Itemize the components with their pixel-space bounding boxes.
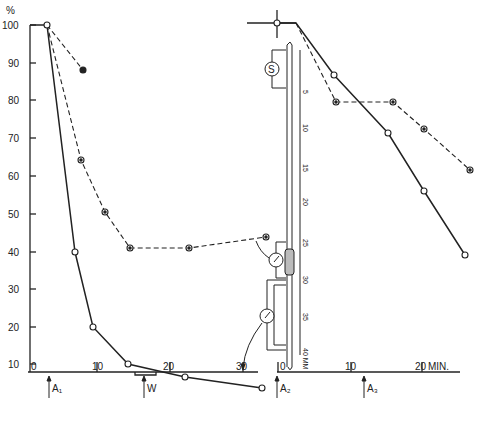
y-tick-80: 80 <box>8 95 20 106</box>
marker-a1: A₁ <box>52 383 63 394</box>
y-tick-60: 60 <box>8 171 20 182</box>
left-x-tick-30: 30 <box>236 361 248 372</box>
apparatus <box>241 42 300 370</box>
marker-a3: A₃ <box>367 383 378 394</box>
scale-tick-5: 5 <box>302 90 309 94</box>
figure: % 100 90 80 70 60 50 40 30 20 10 0 10 20… <box>0 0 478 431</box>
left-solid-line <box>30 25 262 388</box>
left-x-tick-20: 20 <box>163 361 175 372</box>
right-x-tick-20: 20 <box>415 361 427 372</box>
y-unit-label: % <box>6 5 15 16</box>
y-tick-20: 20 <box>8 322 20 333</box>
right-x-tick-10: 10 <box>345 361 357 372</box>
right-x-unit-label: MIN. <box>428 361 449 372</box>
marker-a2: A₂ <box>280 383 291 394</box>
scale-tick-20: 20 <box>302 198 309 206</box>
y-tick-90: 90 <box>8 58 20 69</box>
scale-tick-30: 30 <box>302 276 309 284</box>
left-x-tick-10: 10 <box>92 361 104 372</box>
marker-w: W <box>147 383 157 394</box>
scale-tick-35: 35 <box>302 313 309 321</box>
scale-tick-25: 25 <box>302 239 309 247</box>
left-dashed-line <box>47 25 266 248</box>
y-tick-50: 50 <box>8 209 20 220</box>
right-solid-line <box>277 23 465 255</box>
scale-tick-15: 15 <box>302 164 309 172</box>
y-tick-40: 40 <box>8 247 20 258</box>
left-x-tick-0: 0 <box>31 361 37 372</box>
right-dashed-line <box>296 23 470 170</box>
stimulator-label: S <box>268 64 275 75</box>
y-tick-30: 30 <box>8 284 20 295</box>
scale-tick-10: 10 <box>302 124 309 132</box>
scale-tick-40: 40 MM <box>302 348 309 370</box>
chart-svg: % 100 90 80 70 60 50 40 30 20 10 0 10 20… <box>0 0 478 431</box>
y-tick-70: 70 <box>8 133 20 144</box>
right-x-tick-0: 0 <box>280 361 286 372</box>
y-tick-10: 10 <box>8 359 20 370</box>
y-tick-100: 100 <box>2 20 19 31</box>
